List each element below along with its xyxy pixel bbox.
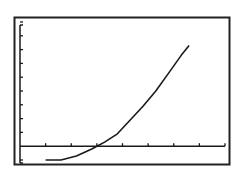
x-axis (20, 143, 225, 146)
function-curve (46, 46, 190, 161)
screen-frame (15, 18, 230, 165)
calculator-graph-screen: Graphing calculator graph screen (0, 0, 242, 175)
y-axis (20, 22, 23, 163)
graph-plot (0, 0, 242, 175)
